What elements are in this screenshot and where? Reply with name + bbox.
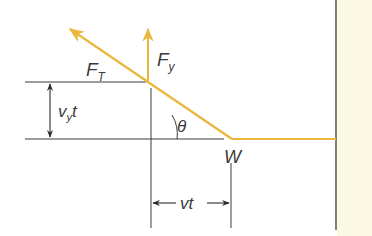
tension-label: FT bbox=[86, 59, 107, 84]
horizontal-distance-label: vt bbox=[180, 194, 195, 213]
weight-point-label: W bbox=[224, 147, 243, 167]
wall-shading bbox=[337, 0, 372, 236]
vertical-component-label: Fy bbox=[157, 49, 176, 74]
vertical-distance-label: vyt bbox=[58, 102, 78, 123]
angle-label: θ bbox=[177, 117, 187, 136]
force-diagram: vyt vt θ FT Fy W bbox=[0, 0, 372, 236]
